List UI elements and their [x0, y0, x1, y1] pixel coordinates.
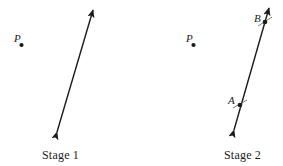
- stage-2-point-p-label: P: [186, 33, 193, 44]
- stage-1-group: [19, 10, 93, 132]
- geometry-figure: P P A B Stage 1 Stage 2: [0, 0, 283, 166]
- figure-canvas: [0, 0, 283, 166]
- stage-2-caption: Stage 2: [224, 148, 261, 163]
- stage-2-point-b-label: B: [254, 13, 261, 24]
- stage-1-caption: Stage 1: [42, 148, 79, 163]
- stage-2-line: [234, 8, 269, 130]
- stage-2-point-a-dot: [238, 103, 243, 108]
- stage-2-point-a-label: A: [228, 95, 235, 106]
- stage-2-group: [191, 8, 272, 130]
- stage-2-point-b-dot: [263, 20, 268, 25]
- stage-1-point-p-label: P: [14, 33, 21, 44]
- stage-1-line: [57, 10, 93, 132]
